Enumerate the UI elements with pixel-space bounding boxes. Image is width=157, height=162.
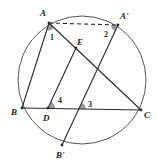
- segment-a-a-prime: [49, 23, 118, 25]
- angle-label-3: 3: [88, 100, 92, 109]
- angle-label-4: 4: [58, 96, 62, 105]
- label-a: A: [39, 8, 46, 18]
- point-b-prime: [61, 144, 64, 147]
- label-b: B: [10, 107, 17, 117]
- point-c: [140, 109, 143, 112]
- angle-label-2: 2: [104, 30, 108, 39]
- geometry-diagram: A A' B C D E B' 1 2 3 4: [0, 0, 157, 162]
- point-b: [21, 107, 24, 110]
- segment-d-e: [48, 48, 76, 108]
- circumcircle: [18, 16, 146, 144]
- label-a-prime: A': [119, 11, 129, 21]
- label-d: D: [42, 113, 50, 123]
- point-a-prime: [117, 24, 120, 27]
- point-d: [47, 107, 50, 110]
- segment-a-c: [49, 23, 141, 110]
- label-c: C: [144, 110, 151, 120]
- point-e: [75, 47, 78, 50]
- label-b-prime: B': [55, 150, 65, 160]
- label-e: E: [76, 37, 83, 47]
- angle-label-1: 1: [50, 33, 54, 42]
- point-a: [48, 22, 51, 25]
